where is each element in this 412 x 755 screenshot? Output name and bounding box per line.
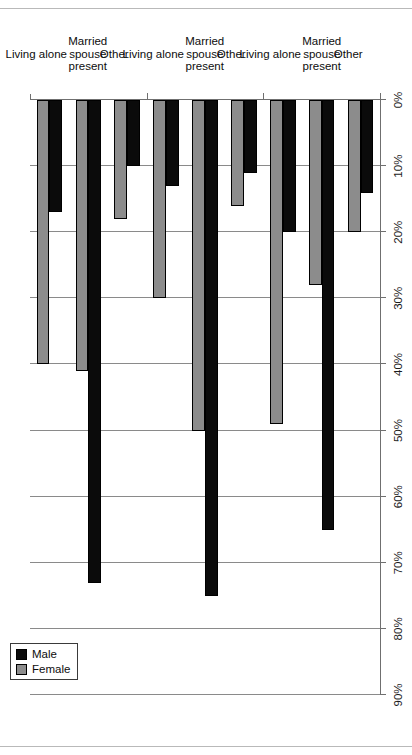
legend-swatch-male-icon bbox=[16, 649, 27, 660]
bar-female bbox=[114, 100, 127, 219]
bar-male bbox=[205, 100, 218, 596]
category-label: Other bbox=[308, 48, 388, 61]
bar-male bbox=[283, 100, 296, 232]
legend-label-male: Male bbox=[32, 648, 57, 660]
category-tick bbox=[30, 94, 31, 100]
bar-male bbox=[361, 100, 374, 193]
bar-female bbox=[309, 100, 322, 285]
bar-female bbox=[153, 100, 166, 298]
axis-tick-label: 80% bbox=[392, 609, 404, 649]
bar-female bbox=[76, 100, 89, 371]
figure-border-right bbox=[0, 8, 412, 9]
axis-tick-label: 10% bbox=[392, 146, 404, 186]
bar-chart-figure: Male Female 0%10%20%30%40%50%60%70%80%90… bbox=[0, 0, 412, 755]
bar-female bbox=[270, 100, 283, 424]
bar-male bbox=[127, 100, 140, 166]
bar-female bbox=[348, 100, 361, 232]
axis-tick-label: 0% bbox=[392, 80, 404, 120]
gridline bbox=[30, 628, 380, 629]
axis-tick-label: 40% bbox=[392, 344, 404, 384]
legend-label-female: Female bbox=[32, 663, 70, 675]
bar-male bbox=[49, 100, 62, 212]
axis-tick-label: 50% bbox=[392, 411, 404, 451]
value-axis-line bbox=[380, 100, 381, 695]
category-tick bbox=[147, 94, 148, 100]
bar-female bbox=[192, 100, 205, 431]
bar-male bbox=[166, 100, 179, 186]
bar-female bbox=[231, 100, 244, 206]
axis-tick-label: 30% bbox=[392, 278, 404, 318]
plot-area bbox=[30, 100, 380, 695]
figure-rotator: Male Female 0%10%20%30%40%50%60%70%80%90… bbox=[0, 0, 412, 755]
legend-item-male: Male bbox=[16, 648, 70, 660]
axis-tick-label: 60% bbox=[392, 477, 404, 517]
chart-page: Male Female 0%10%20%30%40%50%60%70%80%90… bbox=[0, 0, 412, 755]
group-separator-tick bbox=[380, 93, 381, 100]
bar-male bbox=[322, 100, 335, 530]
legend-swatch-female-icon bbox=[16, 664, 27, 675]
category-tick bbox=[263, 94, 264, 100]
axis-tick-label: 70% bbox=[392, 543, 404, 583]
legend-item-female: Female bbox=[16, 663, 70, 675]
figure-border-left bbox=[0, 746, 412, 747]
bar-male bbox=[244, 100, 257, 173]
bar-male bbox=[88, 100, 101, 583]
chart-legend: Male Female bbox=[10, 643, 78, 680]
axis-tick-label: 20% bbox=[392, 212, 404, 252]
bar-female bbox=[37, 100, 50, 364]
gridline bbox=[30, 694, 380, 695]
axis-tick-label: 90% bbox=[392, 675, 404, 715]
